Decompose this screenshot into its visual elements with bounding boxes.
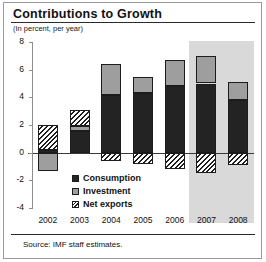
bar-segment-consumption xyxy=(101,95,121,153)
y-tick-label: -4 xyxy=(4,202,24,212)
figure-contributions-to-growth: Contributions to Growth (In percent, per… xyxy=(0,0,266,262)
bar-segment-consumption xyxy=(133,93,153,152)
y-tick-mark xyxy=(29,70,33,71)
bar-segment-consumption xyxy=(70,131,90,153)
source-note: Source: IMF staff estimates. xyxy=(23,240,122,249)
y-tick-label: 8 xyxy=(4,36,24,46)
investment-swatch-icon xyxy=(72,188,79,195)
legend-item-consumption: Consumption xyxy=(72,172,141,184)
net-exports-swatch-icon xyxy=(72,201,79,208)
x-tick-label-2002: 2002 xyxy=(33,215,63,225)
chart-subtitle: (In percent, per year) xyxy=(13,24,83,33)
y-tick-label: 0 xyxy=(4,147,24,157)
legend-item-net-exports: Net exports xyxy=(72,198,141,210)
bar-segment-investment xyxy=(70,126,90,130)
x-tick-label-2007: 2007 xyxy=(191,215,221,225)
x-tick-label-2006: 2006 xyxy=(160,215,190,225)
y-tick-mark xyxy=(29,208,33,209)
bar-segment-consumption xyxy=(228,100,248,153)
bar-2006 xyxy=(165,42,185,208)
bar-2002 xyxy=(38,42,58,208)
y-tick-mark xyxy=(29,125,33,126)
title-divider xyxy=(11,22,255,23)
bar-segment-consumption xyxy=(196,84,216,153)
y-tick-label: 2 xyxy=(4,119,24,129)
y-tick-mark xyxy=(29,153,33,154)
legend-item-investment: Investment xyxy=(72,185,141,197)
x-tick-label-2005: 2005 xyxy=(128,215,158,225)
bar-segment-net-exports xyxy=(133,153,153,164)
bar-segment-investment xyxy=(101,64,121,94)
bar-2007 xyxy=(196,42,216,208)
x-tick-label-2003: 2003 xyxy=(65,215,95,225)
bar-segment-investment xyxy=(165,60,185,86)
bar-segment-investment xyxy=(228,82,248,100)
bar-segment-consumption xyxy=(165,86,185,152)
bar-segment-investment xyxy=(133,77,153,94)
legend-label-consumption: Consumption xyxy=(83,173,141,183)
bar-segment-net-exports xyxy=(38,125,58,150)
page-title: Contributions to Growth xyxy=(13,7,162,21)
bar-segment-net-exports xyxy=(165,153,185,170)
y-tick-label: 6 xyxy=(4,64,24,74)
x-tick-label-2004: 2004 xyxy=(96,215,126,225)
bar-segment-net-exports xyxy=(101,153,121,161)
bar-segment-net-exports xyxy=(70,110,90,127)
source-divider xyxy=(11,234,255,235)
consumption-swatch-icon xyxy=(72,175,79,182)
y-tick-mark xyxy=(29,42,33,43)
bar-segment-investment xyxy=(38,153,58,171)
y-tick-mark xyxy=(29,97,33,98)
bar-segment-net-exports xyxy=(196,153,216,174)
x-tick-label-2008: 2008 xyxy=(223,215,253,225)
y-tick-label: -2 xyxy=(4,174,24,184)
y-tick-label: 4 xyxy=(4,91,24,101)
bar-segment-net-exports xyxy=(228,153,248,165)
chart-legend: Consumption Investment Net exports xyxy=(72,172,141,211)
bar-2008 xyxy=(228,42,248,208)
bar-segment-investment xyxy=(196,56,216,84)
y-tick-mark xyxy=(29,180,33,181)
legend-label-investment: Investment xyxy=(83,186,131,196)
legend-label-net-exports: Net exports xyxy=(83,199,133,209)
